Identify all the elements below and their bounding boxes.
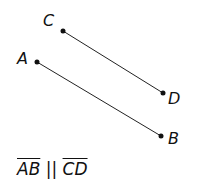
label-d: D (168, 89, 180, 108)
label-c: C (43, 11, 55, 30)
point-b (159, 134, 164, 139)
segment-cd-notation: CD (63, 159, 88, 179)
point-a (35, 60, 40, 65)
parallel-caption: AB || CD (17, 159, 88, 179)
segment-cd (63, 31, 163, 93)
label-a: A (16, 49, 28, 68)
parallel-segments-diagram: C D A B AB || CD (0, 0, 207, 188)
point-d (161, 91, 166, 96)
segment-ab-notation: AB (17, 159, 40, 179)
segment-ab (37, 62, 161, 136)
point-c (61, 29, 66, 34)
parallel-symbol: || (40, 159, 62, 179)
label-b: B (168, 129, 179, 148)
